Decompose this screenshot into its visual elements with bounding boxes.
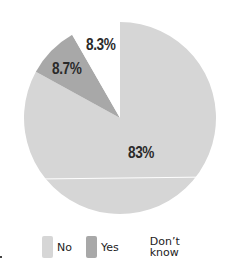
stray-mark <box>0 256 2 258</box>
legend: No Yes Don’t know <box>42 236 198 258</box>
legend-label-no: No <box>57 242 72 253</box>
legend-item-no: No <box>42 236 72 258</box>
slice-label-dont-know: 8.3% <box>86 36 115 54</box>
slice-label-yes: 8.7% <box>52 60 81 78</box>
legend-label-dont-know: Don’t know <box>150 236 190 258</box>
legend-swatch-dont-know <box>135 236 146 258</box>
legend-swatch-no <box>42 236 53 258</box>
pie-slices <box>24 22 216 214</box>
legend-swatch-yes <box>86 236 97 258</box>
legend-item-dont-know: Don’t know <box>135 236 190 258</box>
legend-item-yes: Yes <box>86 236 119 258</box>
legend-label-yes: Yes <box>101 242 119 253</box>
slice-label-no: 83% <box>128 144 154 162</box>
